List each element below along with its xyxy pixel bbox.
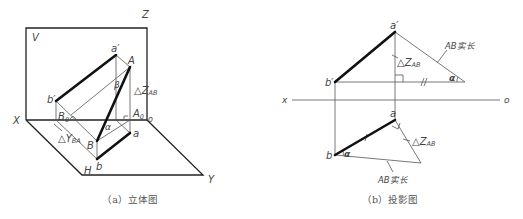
label-true-length-bottom: AB实长 — [377, 175, 408, 185]
line-a-prime-b-prime — [56, 55, 116, 101]
label-B0: B0 — [58, 111, 69, 124]
orthographic-view: x o a′ — [281, 20, 510, 205]
label-x-axis: X — [12, 115, 21, 126]
label-alpha: α — [105, 122, 111, 132]
label-delta-z-bottom: △ZAB — [412, 136, 436, 148]
label-x: x — [281, 95, 288, 105]
label-origin: o — [148, 115, 153, 124]
label-delta-z-top: △ZAB — [397, 57, 421, 69]
label-a-prime-proj: a′ — [390, 20, 399, 31]
label-h-plane: H — [84, 165, 92, 176]
label-z-axis: Z — [141, 9, 150, 20]
label-A0: A0 — [132, 108, 144, 121]
v-plane-frame — [26, 28, 147, 120]
label-a: a — [133, 128, 139, 139]
caption-isometric: （a）立体图 — [102, 194, 158, 205]
label-true-length-top: AB实长 — [444, 41, 475, 51]
label-delta-y-ba: △YBA — [58, 133, 81, 145]
label-alpha-top: α — [449, 73, 456, 83]
label-o: o — [504, 95, 510, 105]
label-v-plane: V — [32, 32, 40, 43]
label-b: b — [96, 161, 102, 172]
label-alpha-bottom: α — [344, 149, 351, 159]
line-ab — [97, 133, 130, 159]
projection-diagram: V Z X H Y o a′ b′ A B a b B0 A0 β α △ZAB… — [0, 0, 523, 219]
label-beta: β — [113, 80, 120, 90]
label-b-prime-proj: b′ — [325, 77, 334, 88]
label-y-axis: Y — [208, 174, 215, 185]
label-b-proj: b — [326, 150, 332, 161]
line-a-prime-b-prime-proj — [335, 32, 395, 82]
caption-projection: （b）投影图 — [362, 194, 418, 205]
h-plane-frame — [26, 120, 203, 175]
label-B: B — [87, 140, 94, 151]
line-AB — [97, 67, 130, 141]
label-b-prime: b′ — [47, 94, 56, 105]
label-A: A — [127, 55, 135, 66]
isometric-view: V Z X H Y o a′ b′ A B a b B0 A0 β α △ZAB… — [12, 9, 215, 205]
label-delta-z-ab: △ZAB — [134, 85, 158, 97]
label-a-prime: a′ — [111, 43, 120, 54]
label-a-proj: a — [390, 108, 396, 119]
